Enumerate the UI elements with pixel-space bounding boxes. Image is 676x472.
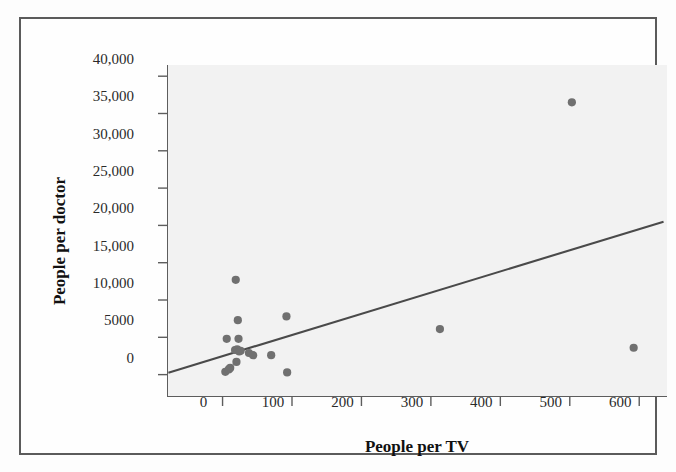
figure-container: People per doctor 0500010,00015,00020,00… [0, 0, 676, 472]
scatter-point [234, 335, 242, 343]
axis-tick-marks [158, 76, 639, 406]
scatter-point [223, 335, 231, 343]
scatter-point [630, 344, 638, 352]
scatter-point [232, 276, 240, 284]
scatter-point [283, 368, 291, 376]
scatter-point [232, 358, 240, 366]
scatter-point [234, 316, 242, 324]
chart-canvas [21, 19, 676, 472]
scatter-point [436, 325, 444, 333]
scatter-point [282, 312, 290, 320]
scatter-point [226, 364, 234, 372]
x-axis-title: People per TV [167, 437, 667, 457]
scatter-point [249, 351, 257, 359]
scatter-point [568, 98, 576, 106]
scatter-point [267, 351, 275, 359]
scatter-points-group [221, 98, 638, 376]
figure-frame-border: People per doctor 0500010,00015,00020,00… [19, 17, 657, 455]
scatter-point [237, 347, 245, 355]
